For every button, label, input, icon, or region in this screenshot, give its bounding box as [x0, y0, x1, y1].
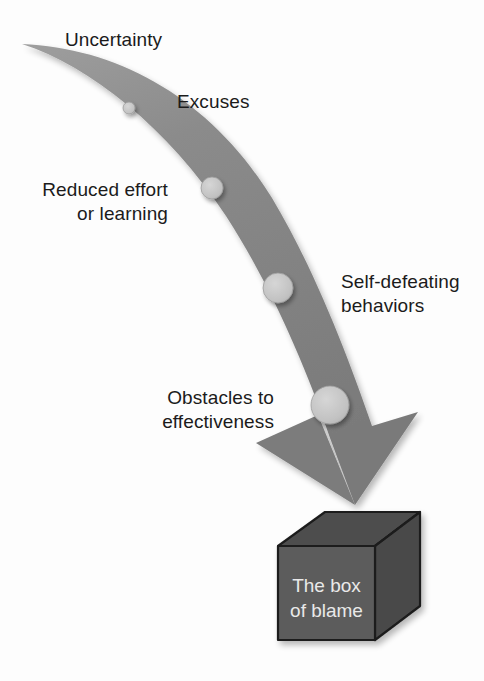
box-of-blame-label-line-2: of blame [278, 598, 375, 623]
label-uncertainty: Uncertainty [65, 28, 162, 52]
label-excuses: Excuses [177, 90, 250, 114]
circle-reduced-effort [201, 177, 223, 199]
label-obstacles-to-effectiveness: Obstacles to effectiveness [114, 386, 274, 434]
label-reduced-effort-or-learning: Reduced effort or learning [8, 178, 168, 226]
circle-self-defeating [263, 273, 293, 303]
circle-excuses [123, 102, 135, 114]
box-of-blame-label-line-1: The box [278, 573, 375, 598]
circle-obstacles [311, 386, 349, 424]
diagram-canvas: Uncertainty Excuses Reduced effort or le… [0, 0, 484, 681]
label-self-defeating-behaviors: Self-defeating behaviors [341, 270, 481, 318]
